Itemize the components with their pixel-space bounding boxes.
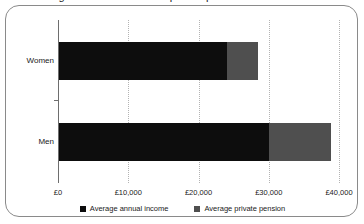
legend-item[interactable]: Average private pension <box>194 204 285 213</box>
cropped-title-text: Average annual income and private pensio… <box>30 0 244 2</box>
gridline-x-40000 <box>339 20 340 183</box>
bar-segment[interactable] <box>269 123 331 161</box>
x-axis-tick-label: £40,000 <box>325 188 352 197</box>
category-label-men: Men <box>10 138 54 146</box>
x-axis-tick-label: £30,000 <box>255 188 282 197</box>
bar-segment[interactable] <box>227 42 259 80</box>
bar-segment[interactable] <box>58 123 269 161</box>
bar-row[interactable] <box>58 123 339 161</box>
legend-item[interactable]: Average annual income <box>80 204 169 213</box>
category-label-women: Women <box>10 57 54 65</box>
legend-label: Average private pension <box>204 204 285 213</box>
x-axis-tick-label: £0 <box>54 188 62 197</box>
legend-swatch-pension <box>194 206 200 212</box>
bar-row[interactable] <box>58 42 339 80</box>
x-axis-tick-label: £20,000 <box>185 188 212 197</box>
chart-legend: Average annual incomeAverage private pen… <box>6 204 359 213</box>
x-axis-tick-label: £10,000 <box>115 188 142 197</box>
plot-area <box>58 20 339 183</box>
chart-panel: WomenMen £0£10,000£20,000£30,000£40,000 … <box>5 5 358 217</box>
legend-label: Average annual income <box>90 204 169 213</box>
legend-swatch-income <box>80 206 86 212</box>
bar-segment[interactable] <box>58 42 227 80</box>
y-axis-tick-mid <box>54 100 58 101</box>
y-axis-line <box>58 20 59 183</box>
